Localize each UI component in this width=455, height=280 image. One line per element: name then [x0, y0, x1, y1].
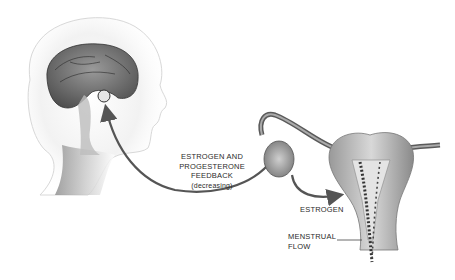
feedback-label-line4: (decreasing)	[172, 181, 252, 191]
feedback-label-line2: PROGESTERONE	[172, 162, 252, 172]
diagram-canvas	[0, 0, 455, 280]
ovary	[264, 141, 294, 177]
pituitary-gland	[98, 90, 110, 102]
feedback-label: ESTROGEN AND PROGESTERONE FEEDBACK (decr…	[172, 152, 252, 190]
menstrual-flow-label: MENSTRUAL FLOW	[288, 232, 336, 251]
estrogen-arrow	[292, 175, 340, 197]
menstrual-flow-line2: FLOW	[288, 242, 336, 252]
estrogen-label: ESTROGEN	[300, 205, 344, 215]
feedback-label-line1: ESTROGEN AND	[172, 152, 252, 162]
head-illustration	[28, 18, 166, 195]
feedback-label-line3: FEEDBACK	[172, 171, 252, 181]
menstrual-flow-line1: MENSTRUAL	[288, 232, 336, 242]
